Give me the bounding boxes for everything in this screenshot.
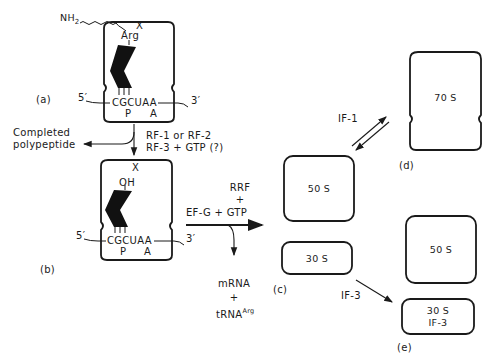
subunit-50s-c: 50 S (284, 183, 354, 194)
a-site-b: A (144, 246, 151, 257)
panel-label-c: (c) (273, 284, 287, 295)
codon-sequence-b: CGCUAA (107, 235, 152, 246)
product-trna: tRNAArg (216, 306, 254, 320)
product-polypeptide-2: polypeptide (13, 139, 76, 150)
site-x-b: X (132, 162, 139, 173)
release-factors-label: RF-1 or RF-2 (146, 130, 212, 141)
panel-label-b: (b) (40, 264, 55, 275)
trna-b (105, 190, 132, 227)
mrna-3-prime-a: 3′ (191, 95, 200, 106)
amino-group-label: NH2 (60, 12, 80, 28)
subunit-50s-e: 50 S (406, 244, 476, 255)
plus-label-2: + (214, 292, 254, 303)
if3-bound-label: IF-3 (402, 317, 474, 328)
mrna-5-prime-b: 5′ (76, 230, 85, 241)
hydroxyl-label: OH (119, 177, 135, 188)
p-site-a: P (125, 108, 131, 119)
mrna-3-prime-b: 3′ (186, 233, 195, 244)
panel-label-a: (a) (36, 94, 51, 105)
panel-label-e: (e) (397, 342, 412, 353)
mrna-5-prime-a: 5′ (78, 92, 87, 103)
subunit-30s-c: 30 S (282, 253, 352, 264)
release-gtp-label: RF-3 + GTP (?) (146, 142, 223, 153)
ribosome-70s-label: 70 S (410, 92, 481, 103)
trna-a (110, 45, 136, 88)
amino-acid-label: Arg (121, 30, 139, 41)
subunit-30s-e: 30 S (402, 305, 474, 316)
if3-label: IF-3 (341, 290, 361, 301)
codon-sequence-a: CGCUAA (112, 97, 157, 108)
a-site-a: A (150, 108, 157, 119)
p-site-b: P (120, 246, 126, 257)
product-mrna: mRNA (214, 278, 254, 289)
efg-gtp-label: EF-G + GTP (186, 207, 247, 218)
panel-label-d: (d) (399, 160, 414, 171)
rrf-label: RRF (200, 182, 280, 193)
plus-label-1: + (200, 194, 280, 205)
if1-label: IF-1 (338, 113, 358, 124)
product-polypeptide-1: Completed (13, 127, 70, 138)
